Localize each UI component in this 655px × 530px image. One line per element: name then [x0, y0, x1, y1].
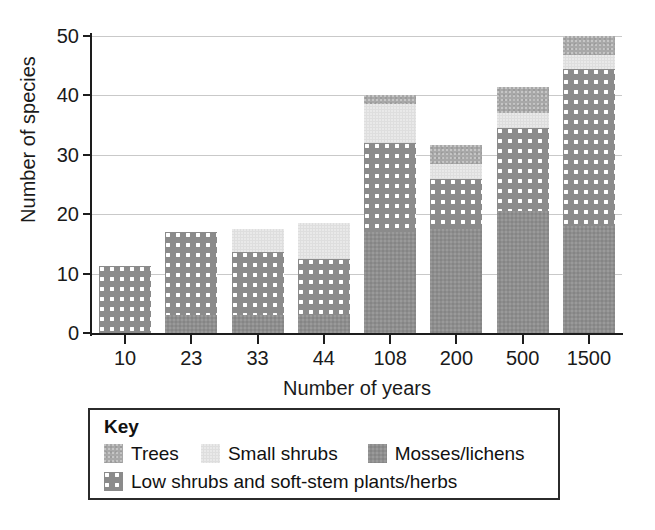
bar-segment-trees [563, 36, 615, 55]
y-tick-label: 0 [68, 323, 79, 343]
bar-44-years [298, 223, 350, 333]
x-tick-label: 500 [506, 348, 539, 368]
low-shrubs-swatch-icon [104, 472, 123, 491]
mosses-lichens-swatch-icon [368, 444, 387, 463]
bar-segment-low-shrubs [298, 259, 350, 315]
bar-segment-low-shrubs [165, 232, 217, 315]
gridline [92, 36, 622, 37]
y-axis-title: Number of species [17, 0, 40, 290]
x-axis-title: Number of years [92, 377, 622, 400]
x-tick-mark [124, 335, 126, 344]
y-tick-mark [83, 154, 90, 156]
legend-row-primary: Trees Small shrubs Mosses/lichens [104, 444, 525, 463]
x-tick-mark [389, 335, 391, 344]
x-axis-line [90, 333, 623, 335]
bar-segment-small-shrubs [364, 104, 416, 143]
x-tick-mark [522, 335, 524, 344]
small-shrubs-swatch-icon [201, 444, 220, 463]
bar-segment-trees [497, 87, 549, 114]
bar-segment-mosses-lichens [430, 229, 482, 333]
x-tick-mark [257, 335, 259, 344]
y-tick-label: 20 [57, 204, 79, 224]
x-tick-mark [190, 335, 192, 344]
bar-segment-mosses-lichens [232, 315, 284, 333]
x-tick-label: 200 [440, 348, 473, 368]
x-tick-label: 1500 [567, 348, 612, 368]
y-tick-mark [83, 332, 90, 334]
y-tick-mark [83, 35, 90, 37]
bar-segment-low-shrubs [430, 179, 482, 229]
bar-segment-low-shrubs [563, 69, 615, 226]
legend-label-trees: Trees [131, 444, 179, 463]
bar-108-years [364, 95, 416, 333]
legend-label-low-shrubs: Low shrubs and soft-stem plants/herbs [131, 472, 457, 491]
trees-swatch-icon [104, 444, 123, 463]
bar-1500-years [563, 36, 615, 333]
bar-23-years [165, 232, 217, 333]
bar-segment-mosses-lichens [165, 315, 217, 333]
bar-segment-mosses-lichens [563, 226, 615, 333]
legend-label-mosses-lichens: Mosses/lichens [395, 444, 525, 463]
y-tick-mark [83, 213, 90, 215]
legend-row-secondary: Low shrubs and soft-stem plants/herbs [104, 472, 457, 491]
y-tick-label: 40 [57, 85, 79, 105]
bar-segment-low-shrubs [497, 128, 549, 211]
legend-label-small-shrubs: Small shrubs [228, 444, 338, 463]
succession-stacked-bar-chart: Number of species Number of years 010203… [0, 0, 655, 530]
legend-box: Key Trees Small shrubs Mosses/lichens Lo… [88, 408, 560, 500]
legend-entry-trees: Trees [104, 444, 179, 463]
y-tick-mark [83, 94, 90, 96]
x-tick-label: 108 [373, 348, 406, 368]
bar-200-years [430, 145, 482, 333]
bar-segment-trees [430, 145, 482, 164]
plot-area: 01020304050 [92, 36, 622, 333]
bar-segment-mosses-lichens [497, 211, 549, 333]
bar-segment-low-shrubs [364, 143, 416, 232]
bar-segment-mosses-lichens [364, 232, 416, 333]
bar-segment-small-shrubs [430, 164, 482, 179]
bar-segment-low-shrubs [99, 266, 151, 333]
bar-segment-small-shrubs [232, 229, 284, 252]
bar-segment-low-shrubs [232, 252, 284, 316]
x-tick-mark [455, 335, 457, 344]
y-tick-mark [83, 273, 90, 275]
x-tick-mark [588, 335, 590, 344]
x-tick-mark [323, 335, 325, 344]
bar-10-years [99, 266, 151, 333]
x-tick-label: 44 [313, 348, 335, 368]
bar-segment-mosses-lichens [298, 315, 350, 333]
x-tick-label: 33 [247, 348, 269, 368]
legend-entry-small-shrubs: Small shrubs [201, 444, 338, 463]
bar-segment-small-shrubs [298, 223, 350, 259]
bar-segment-small-shrubs [497, 113, 549, 128]
y-tick-label: 10 [57, 264, 79, 284]
y-tick-label: 30 [57, 145, 79, 165]
legend-entry-low-shrubs: Low shrubs and soft-stem plants/herbs [104, 472, 457, 491]
x-tick-label: 23 [180, 348, 202, 368]
x-tick-label: 10 [114, 348, 136, 368]
bar-500-years [497, 87, 549, 334]
legend-title: Key [104, 416, 139, 438]
bar-segment-trees [364, 95, 416, 104]
legend-entry-mosses-lichens: Mosses/lichens [368, 444, 525, 463]
y-tick-label: 50 [57, 26, 79, 46]
bar-33-years [232, 229, 284, 333]
bar-segment-small-shrubs [563, 55, 615, 69]
